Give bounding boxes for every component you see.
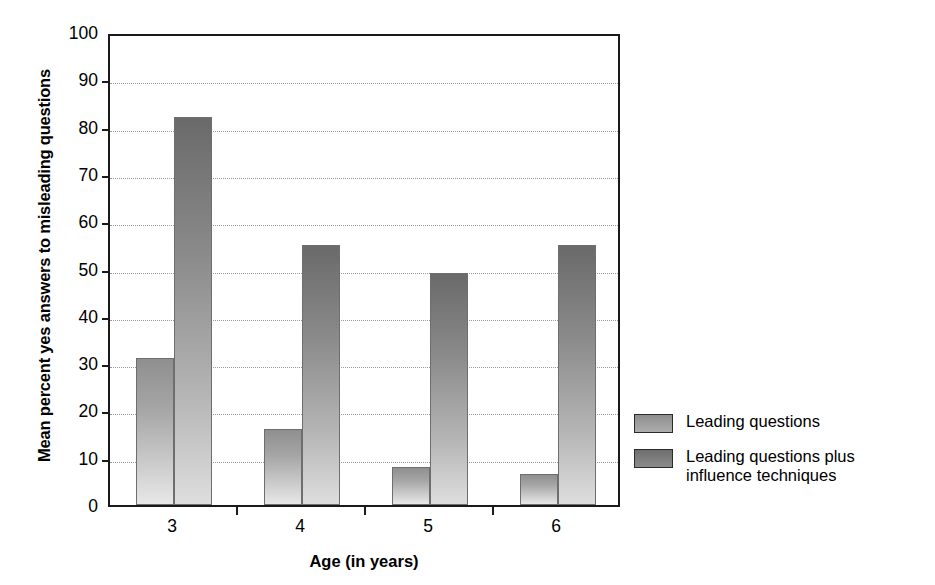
x-tick-mark bbox=[236, 507, 238, 515]
x-tick-label: 6 bbox=[536, 518, 576, 536]
x-tick-mark bbox=[492, 507, 494, 515]
y-tick-label: 70 bbox=[52, 167, 98, 185]
legend-item: Leading questions plus influence techniq… bbox=[634, 447, 934, 486]
x-tick-label: 5 bbox=[408, 518, 448, 536]
y-tick-label: 90 bbox=[52, 72, 98, 90]
chart-legend: Leading questions Leading questions plus… bbox=[634, 412, 934, 500]
y-tick-label: 30 bbox=[52, 356, 98, 374]
bar bbox=[520, 474, 558, 505]
legend-item: Leading questions bbox=[634, 412, 934, 433]
gridline bbox=[110, 83, 618, 84]
y-tick-label: 10 bbox=[52, 451, 98, 469]
chart-figure: Mean percent yes answers to misleading q… bbox=[0, 0, 935, 585]
y-tick-label: 60 bbox=[52, 214, 98, 232]
legend-label: Leading questions plus influence techniq… bbox=[686, 447, 916, 486]
legend-swatch-influence-techniques bbox=[634, 449, 673, 468]
plot-area bbox=[108, 34, 620, 507]
y-tick-label: 80 bbox=[52, 120, 98, 138]
bar bbox=[264, 429, 302, 505]
y-tick-label: 100 bbox=[52, 25, 98, 43]
x-tick-mark bbox=[364, 507, 366, 515]
x-tick-label: 4 bbox=[280, 518, 320, 536]
bar bbox=[558, 245, 596, 505]
bar bbox=[430, 273, 468, 505]
x-axis-title: Age (in years) bbox=[108, 552, 620, 571]
y-axis-title: Mean percent yes answers to misleading q… bbox=[35, 26, 54, 506]
bar bbox=[136, 358, 174, 505]
y-tick-label: 40 bbox=[52, 309, 98, 327]
legend-label: Leading questions bbox=[686, 412, 820, 431]
bar bbox=[174, 117, 212, 505]
legend-swatch-leading-questions bbox=[634, 414, 673, 433]
bar bbox=[302, 245, 340, 505]
x-tick-label: 3 bbox=[152, 518, 192, 536]
y-tick-label: 0 bbox=[52, 498, 98, 516]
bar bbox=[392, 467, 430, 505]
y-tick-label: 50 bbox=[52, 262, 98, 280]
y-tick-label: 20 bbox=[52, 403, 98, 421]
